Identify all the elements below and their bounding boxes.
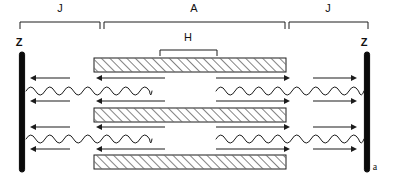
arrow-row-3-arrow-right-long bbox=[216, 124, 290, 130]
slab-middle-hatch-fill bbox=[95, 109, 286, 122]
arrow-head-icon bbox=[30, 75, 36, 81]
arrow-row-3-arrow-left-long bbox=[96, 124, 165, 130]
arrow-row-1-arrow-left-short bbox=[30, 75, 70, 81]
arrow-row-2-arrow-left-long bbox=[96, 98, 165, 104]
arrow-head-icon bbox=[30, 98, 36, 104]
wave-row-upper-wave-left bbox=[26, 87, 152, 95]
wall-left-label: Z bbox=[16, 36, 23, 48]
slab-top-hatch-fill bbox=[95, 59, 286, 72]
arrow-head-icon bbox=[351, 98, 357, 104]
wave-row-lower-wave-left bbox=[26, 135, 152, 143]
bracket-j-right bbox=[289, 22, 368, 29]
slab-middle bbox=[94, 108, 286, 122]
wall-right bbox=[364, 52, 369, 172]
arrow-head-icon bbox=[284, 98, 290, 104]
arrow-row-2-arrow-right-long bbox=[216, 98, 290, 104]
diagram-canvas: JAJ H ZZ a bbox=[0, 0, 395, 180]
bracket-a-center-label: A bbox=[190, 2, 198, 14]
arrow-head-icon bbox=[96, 75, 102, 81]
arrow-row-2-arrow-right-short bbox=[313, 98, 357, 104]
bracket-j-right-label: J bbox=[325, 2, 331, 14]
arrow-head-icon bbox=[284, 124, 290, 130]
arrow-row-4-arrow-left-long bbox=[96, 146, 165, 152]
bracket-h-label: H bbox=[184, 31, 192, 43]
inner-bracket-group: H bbox=[160, 31, 217, 56]
arrow-row-4-arrow-right-long bbox=[216, 146, 290, 152]
wall-right-label: Z bbox=[361, 36, 368, 48]
arrow-head-icon bbox=[96, 146, 102, 152]
slab-bottom bbox=[94, 155, 286, 169]
wave-row-lower-wave-right bbox=[216, 135, 364, 143]
wall-group: ZZ bbox=[16, 36, 370, 172]
arrow-row-4-arrow-right-short bbox=[313, 146, 357, 152]
arrow-head-icon bbox=[96, 124, 102, 130]
arrow-head-icon bbox=[284, 146, 290, 152]
arrow-row-1-arrow-right-long bbox=[216, 75, 290, 81]
bracket-a-center bbox=[104, 22, 285, 29]
slab-bottom-hatch-fill bbox=[95, 156, 286, 169]
arrow-head-icon bbox=[351, 75, 357, 81]
arrow-row-3-arrow-right-short bbox=[313, 124, 357, 130]
panel-label: a bbox=[373, 161, 378, 172]
bracket-j-left bbox=[20, 22, 100, 29]
diagram-svg: JAJ H ZZ a bbox=[0, 0, 395, 180]
wall-left bbox=[19, 52, 24, 172]
arrow-head-icon bbox=[284, 75, 290, 81]
arrow-head-icon bbox=[30, 146, 36, 152]
corner-label-group: a bbox=[373, 161, 378, 172]
arrow-row-1-arrow-right-short bbox=[313, 75, 357, 81]
arrow-head-icon bbox=[351, 146, 357, 152]
arrow-row-4-arrow-left-short bbox=[30, 146, 70, 152]
arrow-head-icon bbox=[96, 98, 102, 104]
arrow-row-1-arrow-left-long bbox=[96, 75, 165, 81]
arrow-head-icon bbox=[30, 124, 36, 130]
arrow-row-3-arrow-left-short bbox=[30, 124, 70, 130]
slab-top bbox=[94, 58, 286, 72]
arrow-row-2-arrow-left-short bbox=[30, 98, 70, 104]
arrow-head-icon bbox=[351, 124, 357, 130]
top-bracket-group: JAJ bbox=[20, 2, 368, 29]
wave-row-upper-wave-right bbox=[216, 87, 364, 95]
slab-group bbox=[94, 58, 286, 169]
bracket-h bbox=[160, 50, 217, 56]
bracket-j-left-label: J bbox=[57, 2, 63, 14]
